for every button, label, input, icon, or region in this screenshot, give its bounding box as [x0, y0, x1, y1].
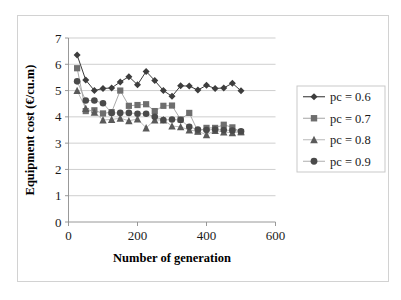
legend-label-2: pc = 0.7	[330, 112, 371, 126]
marker-square	[143, 101, 149, 107]
marker-circle	[186, 124, 193, 131]
legend: pc = 0.6pc = 0.7pc = 0.8pc = 0.9	[297, 86, 385, 172]
marker-circle	[74, 78, 81, 85]
marker-square	[186, 110, 192, 116]
marker-circle	[212, 126, 219, 133]
marker-circle	[238, 128, 245, 135]
y-tick-label-1: 1	[55, 188, 62, 203]
marker-circle	[126, 110, 133, 117]
marker-circle	[220, 127, 227, 134]
marker-circle	[100, 100, 107, 107]
plot-area-background	[69, 38, 276, 222]
marker-circle	[91, 97, 98, 104]
marker-circle	[151, 114, 158, 121]
y-axis-title: Equipment cost (€/cu.m)	[23, 65, 37, 196]
chart-canvas: 012345670200400600Number of generationEq…	[0, 0, 401, 300]
marker-circle	[229, 127, 236, 134]
marker-square	[160, 103, 166, 109]
marker-circle	[134, 110, 141, 117]
y-tick-label-2: 2	[55, 162, 62, 177]
marker-circle	[160, 117, 167, 124]
x-axis-title: Number of generation	[113, 251, 231, 265]
marker-circle	[117, 110, 124, 117]
marker-square	[100, 110, 106, 116]
marker-square	[117, 87, 123, 93]
marker-circle	[203, 127, 210, 134]
y-tick-label-3: 3	[55, 136, 62, 151]
marker-circle	[195, 126, 202, 133]
marker-square	[169, 102, 175, 108]
y-tick-label-5: 5	[55, 83, 62, 98]
marker-circle	[82, 97, 89, 104]
marker-circle	[177, 117, 184, 124]
legend-label-1: pc = 0.6	[330, 90, 371, 104]
y-tick-label-0: 0	[55, 215, 62, 230]
marker-square	[152, 108, 158, 114]
legend-label-4: pc = 0.9	[330, 155, 371, 169]
marker-circle	[311, 158, 318, 165]
chart-figure: 012345670200400600Number of generationEq…	[0, 0, 401, 300]
marker-square	[134, 102, 140, 108]
y-tick-label-7: 7	[55, 31, 62, 46]
x-tick-label-400: 400	[197, 228, 217, 243]
marker-square	[311, 115, 317, 121]
x-tick-label-200: 200	[128, 228, 148, 243]
marker-square	[74, 65, 80, 71]
marker-circle	[169, 116, 176, 123]
x-tick-label-600: 600	[266, 228, 286, 243]
x-tick-label-0: 0	[65, 228, 72, 243]
marker-circle	[108, 110, 115, 117]
y-tick-label-6: 6	[55, 57, 62, 72]
marker-square	[126, 103, 132, 109]
y-tick-label-4: 4	[55, 109, 62, 124]
legend-label-3: pc = 0.8	[330, 133, 371, 147]
marker-circle	[143, 110, 150, 117]
